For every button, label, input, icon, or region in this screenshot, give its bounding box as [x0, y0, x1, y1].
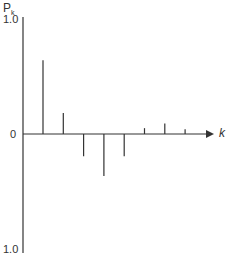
stems [43, 60, 185, 176]
x-axis-arrow-icon [206, 130, 214, 138]
stem-plot [0, 0, 229, 255]
